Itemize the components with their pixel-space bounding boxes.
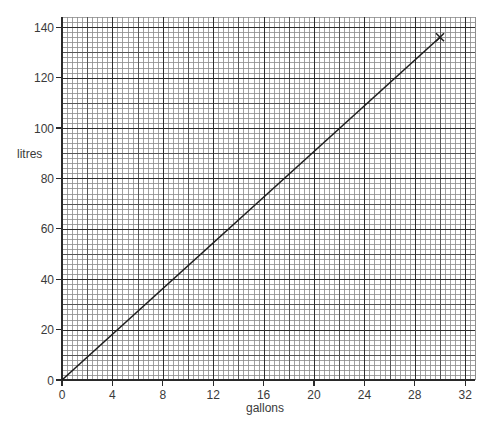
x-tick-label: 16 <box>257 388 271 402</box>
y-tick-label: 100 <box>34 122 54 136</box>
x-tick-label: 20 <box>307 388 321 402</box>
major-grid <box>62 17 475 380</box>
x-axis-label: gallons <box>246 401 284 415</box>
x-tick-label: 32 <box>459 388 473 402</box>
y-tick-label: 80 <box>41 172 55 186</box>
y-tick-label: 20 <box>41 323 55 337</box>
gallons-litres-conversion-chart: 048121620242832 020406080100120140 gallo… <box>0 0 494 432</box>
axes <box>62 17 476 380</box>
x-axis-ticks: 048121620242832 <box>59 380 473 402</box>
y-axis-ticks: 020406080100120140 <box>34 21 62 388</box>
x-tick-label: 4 <box>109 388 116 402</box>
y-tick-label: 0 <box>47 374 54 388</box>
minor-grid <box>62 17 476 380</box>
y-tick-label: 120 <box>34 71 54 85</box>
x-tick-label: 12 <box>207 388 221 402</box>
y-axis-label: litres <box>17 147 42 161</box>
x-tick-label: 8 <box>159 388 166 402</box>
x-tick-label: 0 <box>59 388 66 402</box>
y-tick-label: 140 <box>34 21 54 35</box>
y-tick-label: 40 <box>41 273 55 287</box>
x-tick-label: 28 <box>408 388 422 402</box>
x-tick-label: 24 <box>358 388 372 402</box>
y-tick-label: 60 <box>41 222 55 236</box>
data-series <box>62 33 444 380</box>
